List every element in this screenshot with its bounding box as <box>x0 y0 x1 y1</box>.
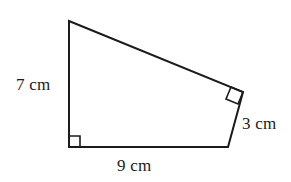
side-length-label-bottom: 9 cm <box>117 157 151 174</box>
geometry-figure: 7 cm 3 cm 9 cm <box>0 0 291 182</box>
side-length-label-left: 7 cm <box>16 76 50 93</box>
side-length-label-right: 3 cm <box>242 115 276 132</box>
